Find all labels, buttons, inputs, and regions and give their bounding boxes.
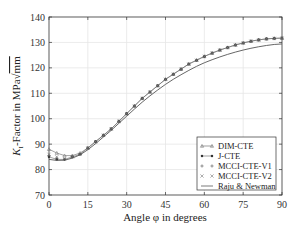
y-axis-label: KI-Factor in MPa√mm: [10, 56, 25, 157]
legend-label: J-CTE: [218, 151, 240, 161]
y-tick-label: 130: [30, 37, 45, 48]
legend-label: MCCI-CTE-V1: [218, 161, 272, 171]
chart: 0153045607590708090100110120130140 Angle…: [0, 0, 298, 236]
x-tick-label: 90: [277, 199, 287, 210]
svg-text:KI-Factor in MPa√mm: KI-Factor in MPa√mm: [10, 56, 25, 157]
y-tick-label: 100: [30, 113, 45, 124]
x-axis-label: Angle φ in degrees: [123, 211, 207, 223]
legend: DIM-CTEJ-CTEMCCI-CTE-V1MCCI-CTE-V2Raju &…: [197, 137, 276, 191]
x-tick-label: 30: [122, 199, 132, 210]
x-tick-label: 60: [199, 199, 209, 210]
y-tick-label: 110: [30, 88, 45, 99]
legend-label: Raju & Newman: [218, 181, 276, 191]
x-tick-label: 45: [161, 199, 171, 210]
x-tick-label: 0: [47, 199, 52, 210]
x-tick-label: 15: [83, 199, 93, 210]
x-tick-label: 75: [238, 199, 248, 210]
legend-label: MCCI-CTE-V2: [218, 171, 272, 181]
y-tick-label: 90: [35, 139, 45, 150]
y-tick-label: 80: [35, 164, 45, 175]
y-tick-label: 120: [30, 62, 45, 73]
y-tick-label: 70: [35, 190, 45, 201]
legend-label: DIM-CTE: [218, 141, 253, 151]
y-tick-label: 140: [30, 12, 45, 23]
